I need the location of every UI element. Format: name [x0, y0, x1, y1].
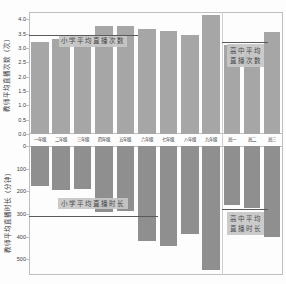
count-y-tick-0: 0.0	[10, 131, 26, 137]
count-y-tick-8: 4.0	[10, 16, 26, 22]
bar-count-6	[160, 31, 178, 134]
x-tick-label-7: 八年级	[179, 137, 200, 142]
bar-count-0	[31, 42, 49, 134]
average-annotation-label-0: 小学平均直播次数	[59, 36, 127, 47]
bar-count-11	[264, 32, 280, 134]
bar-count-7	[181, 35, 199, 134]
count-y-tick-2: 1.0	[10, 102, 26, 108]
average-reference-line-1	[222, 42, 268, 43]
x-tick-label-6: 七年级	[158, 137, 179, 142]
average-annotation-label-1: 高中平均直播次数	[227, 44, 264, 67]
bar-duration-6	[160, 146, 178, 246]
count-y-tick-6: 3.0	[10, 45, 26, 51]
annotation-text-line: 直播时长	[230, 224, 262, 234]
annotation-text-line: 直播次数	[230, 56, 262, 66]
duration-y-tick-mark-4	[26, 237, 29, 238]
annotation-text-line: 小学平均直播次数	[61, 36, 125, 46]
count-y-tick-mark-1	[26, 120, 29, 121]
duration-y-tick-0: 0	[10, 143, 26, 149]
bar-count-2	[74, 39, 92, 134]
count-y-tick-mark-5	[26, 62, 29, 63]
duration-y-tick-mark-2	[26, 191, 29, 192]
x-tick-label-10: 高二	[242, 137, 262, 142]
count-y-tick-mark-3	[26, 91, 29, 92]
count-y-tick-mark-6	[26, 48, 29, 49]
duration-y-tick-1: 100	[10, 166, 26, 172]
bar-duration-11	[264, 146, 280, 237]
duration-y-tick-4: 400	[10, 234, 26, 240]
bar-duration-0	[31, 146, 49, 186]
axis-band-right-edge	[282, 134, 283, 146]
x-tick-label-1: 二年级	[50, 137, 71, 142]
x-tick-label-8: 九年级	[201, 137, 222, 142]
count-y-tick-4: 2.0	[10, 74, 26, 80]
bar-duration-10	[244, 146, 260, 208]
average-annotation-label-3: 高中平均直播时长	[227, 212, 264, 235]
average-reference-line-3	[222, 209, 268, 210]
annotation-text-line: 高中平均	[230, 214, 262, 224]
count-y-tick-3: 1.5	[10, 88, 26, 94]
live-teaching-bar-chart: 教师平均直播次数（次） 教师平均直播时长（分钟） 一年级二年级三年级四年级五年级…	[0, 0, 286, 284]
x-tick-label-9: 高一	[222, 137, 242, 142]
x-tick-label-2: 三年级	[72, 137, 93, 142]
count-y-tick-mark-2	[26, 105, 29, 106]
x-tick-label-5: 六年级	[136, 137, 157, 142]
duration-y-tick-mark-0	[26, 146, 29, 147]
bar-duration-8	[202, 146, 220, 270]
count-y-tick-mark-4	[26, 77, 29, 78]
duration-y-tick-mark-5	[26, 259, 29, 260]
duration-y-tick-mark-3	[26, 214, 29, 215]
x-tick-label-3: 四年级	[93, 137, 114, 142]
duration-y-tick-2: 200	[10, 188, 26, 194]
bar-duration-1	[52, 146, 70, 190]
bar-count-1	[52, 39, 70, 134]
count-y-tick-mark-0	[26, 134, 29, 135]
average-annotation-label-2: 小学平均直播时长	[58, 198, 128, 209]
x-tick-label-0: 一年级	[29, 137, 50, 142]
duration-y-tick-3: 300	[10, 211, 26, 217]
count-y-tick-7: 3.5	[10, 31, 26, 37]
count-y-tick-mark-8	[26, 19, 29, 20]
x-tick-label-11: 高三	[262, 137, 282, 142]
bar-count-8	[202, 15, 220, 134]
average-reference-line-2	[29, 216, 158, 217]
count-y-tick-5: 2.5	[10, 59, 26, 65]
duration-y-tick-mark-1	[26, 169, 29, 170]
bar-duration-2	[74, 146, 92, 189]
bar-duration-9	[224, 146, 240, 205]
bar-duration-5	[138, 146, 156, 241]
annotation-text-line: 高中平均	[230, 46, 262, 56]
bar-duration-7	[181, 146, 199, 234]
count-y-tick-1: 0.5	[10, 117, 26, 123]
duration-y-tick-5: 500	[10, 256, 26, 262]
annotation-text-line: 小学平均直播时长	[61, 199, 125, 209]
x-tick-label-4: 五年级	[115, 137, 136, 142]
bar-count-5	[138, 29, 156, 134]
